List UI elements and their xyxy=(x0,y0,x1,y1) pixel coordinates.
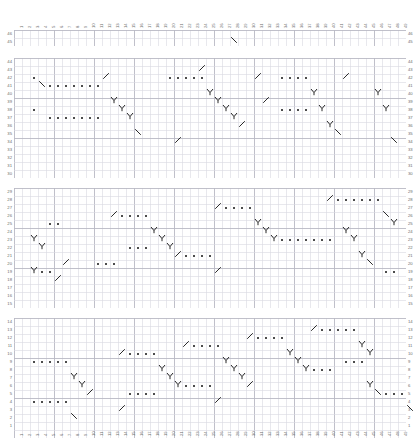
chart-cell[interactable] xyxy=(222,98,230,106)
panel-top-strip[interactable] xyxy=(14,30,406,46)
chart-cell[interactable] xyxy=(126,212,134,220)
chart-cell[interactable] xyxy=(126,244,134,252)
chart-cell[interactable] xyxy=(110,90,118,98)
chart-cell[interactable] xyxy=(270,228,278,236)
chart-cell[interactable] xyxy=(262,90,270,98)
chart-cell[interactable] xyxy=(230,106,238,114)
chart-cell[interactable] xyxy=(382,268,390,276)
chart-cell[interactable] xyxy=(374,382,382,390)
chart-cell[interactable] xyxy=(286,74,294,82)
chart-cell[interactable] xyxy=(54,358,62,366)
chart-cell[interactable] xyxy=(142,350,150,358)
chart-cell[interactable] xyxy=(254,66,262,74)
chart-cell[interactable] xyxy=(318,98,326,106)
chart-cell[interactable] xyxy=(142,244,150,252)
chart-cell[interactable] xyxy=(222,204,230,212)
chart-cell[interactable] xyxy=(46,268,54,276)
chart-cell[interactable] xyxy=(46,114,54,122)
chart-cell[interactable] xyxy=(182,334,190,342)
chart-cell[interactable] xyxy=(310,366,318,374)
chart-cell[interactable] xyxy=(390,268,398,276)
chart-cell[interactable] xyxy=(334,122,342,130)
chart-cell[interactable] xyxy=(294,106,302,114)
chart-cell[interactable] xyxy=(46,358,54,366)
chart-cell[interactable] xyxy=(230,30,238,38)
chart-cell[interactable] xyxy=(38,358,46,366)
chart-cell[interactable] xyxy=(134,212,142,220)
chart-cell[interactable] xyxy=(366,374,374,382)
chart-cell[interactable] xyxy=(182,382,190,390)
chart-cell[interactable] xyxy=(150,350,158,358)
chart-cell[interactable] xyxy=(214,390,222,398)
chart-cell[interactable] xyxy=(70,366,78,374)
chart-cell[interactable] xyxy=(382,98,390,106)
chart-cell[interactable] xyxy=(166,236,174,244)
chart-cell[interactable] xyxy=(174,130,182,138)
chart-cell[interactable] xyxy=(198,74,206,82)
chart-cell[interactable] xyxy=(62,398,70,406)
chart-cell[interactable] xyxy=(206,82,214,90)
chart-cell[interactable] xyxy=(390,390,398,398)
chart-cell[interactable] xyxy=(246,326,254,334)
chart-cell[interactable] xyxy=(150,220,158,228)
chart-cell[interactable] xyxy=(30,358,38,366)
chart-cell[interactable] xyxy=(126,106,134,114)
chart-cell[interactable] xyxy=(350,326,358,334)
chart-cell[interactable] xyxy=(166,366,174,374)
chart-cell[interactable] xyxy=(70,406,78,414)
chart-cell[interactable] xyxy=(342,66,350,74)
chart-cell[interactable] xyxy=(174,244,182,252)
chart-cell[interactable] xyxy=(38,236,46,244)
chart-cell[interactable] xyxy=(326,326,334,334)
chart-cell[interactable] xyxy=(278,236,286,244)
chart-cell[interactable] xyxy=(62,358,70,366)
chart-cell[interactable] xyxy=(142,390,150,398)
chart-cell[interactable] xyxy=(302,106,310,114)
chart-cell[interactable] xyxy=(190,252,198,260)
chart-cell[interactable] xyxy=(390,212,398,220)
chart-cell[interactable] xyxy=(158,228,166,236)
chart-cell[interactable] xyxy=(246,204,254,212)
chart-cell[interactable] xyxy=(198,252,206,260)
chart-cell[interactable] xyxy=(198,342,206,350)
chart-cell[interactable] xyxy=(294,236,302,244)
chart-cell[interactable] xyxy=(358,196,366,204)
chart-cell[interactable] xyxy=(230,358,238,366)
chart-cell[interactable] xyxy=(54,82,62,90)
chart-cell[interactable] xyxy=(198,382,206,390)
chart-cell[interactable] xyxy=(326,188,334,196)
chart-cell[interactable] xyxy=(30,228,38,236)
chart-cell[interactable] xyxy=(286,342,294,350)
chart-cell[interactable] xyxy=(110,204,118,212)
chart-cell[interactable] xyxy=(86,82,94,90)
chart-cell[interactable] xyxy=(190,382,198,390)
chart-cell[interactable] xyxy=(182,74,190,82)
chart-cell[interactable] xyxy=(134,350,142,358)
chart-cell[interactable] xyxy=(350,358,358,366)
chart-cell[interactable] xyxy=(134,122,142,130)
chart-cell[interactable] xyxy=(302,74,310,82)
chart-cell[interactable] xyxy=(358,334,366,342)
chart-cell[interactable] xyxy=(366,342,374,350)
chart-cell[interactable] xyxy=(54,268,62,276)
chart-cell[interactable] xyxy=(286,236,294,244)
chart-cell[interactable] xyxy=(342,196,350,204)
chart-cell[interactable] xyxy=(278,106,286,114)
chart-cell[interactable] xyxy=(70,114,78,122)
chart-cell[interactable] xyxy=(278,334,286,342)
panel-middle[interactable] xyxy=(14,188,406,308)
chart-cell[interactable] xyxy=(334,196,342,204)
chart-cell[interactable] xyxy=(206,382,214,390)
chart-cell[interactable] xyxy=(174,74,182,82)
chart-cell[interactable] xyxy=(294,74,302,82)
chart-cell[interactable] xyxy=(38,74,46,82)
chart-cell[interactable] xyxy=(150,390,158,398)
chart-cell[interactable] xyxy=(262,334,270,342)
chart-cell[interactable] xyxy=(54,220,62,228)
chart-cell[interactable] xyxy=(142,212,150,220)
chart-cell[interactable] xyxy=(214,260,222,268)
chart-cell[interactable] xyxy=(318,326,326,334)
chart-cell[interactable] xyxy=(222,350,230,358)
chart-cell[interactable] xyxy=(94,114,102,122)
chart-cell[interactable] xyxy=(126,350,134,358)
